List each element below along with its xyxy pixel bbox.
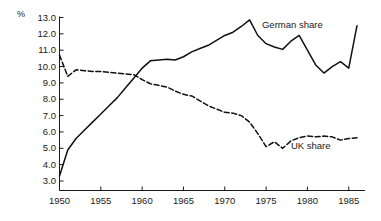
y-tick-label: 10.0 [20, 61, 56, 72]
y-tick-label: 5.0 [20, 142, 56, 153]
series-line [60, 55, 358, 148]
y-tick-label: 3.0 [20, 175, 56, 186]
y-tick-label: 6.0 [20, 126, 56, 137]
x-tick-label: 1970 [205, 195, 245, 206]
chart-plot-area [0, 0, 381, 221]
x-tick-label: 1980 [287, 195, 327, 206]
y-tick-label: 11.0 [20, 44, 56, 55]
series-label: German share [262, 19, 323, 30]
y-tick-label: 8.0 [20, 93, 56, 104]
series-label: UK share [291, 140, 331, 151]
line-chart: % 3.04.05.06.07.08.09.010.011.012.013.0 … [0, 0, 381, 221]
x-tick-label: 1955 [81, 195, 121, 206]
series-line [60, 20, 358, 176]
x-tick-label: 1975 [246, 195, 286, 206]
y-tick-label: 4.0 [20, 159, 56, 170]
y-tick-label: 9.0 [20, 77, 56, 88]
x-tick-label: 1960 [122, 195, 162, 206]
y-tick-label: 12.0 [20, 28, 56, 39]
x-tick-label: 1985 [329, 195, 369, 206]
x-tick-label: 1950 [40, 195, 80, 206]
y-tick-label: 7.0 [20, 110, 56, 121]
x-tick-label: 1965 [163, 195, 203, 206]
y-tick-label: 13.0 [20, 12, 56, 23]
chart-series [60, 20, 358, 176]
